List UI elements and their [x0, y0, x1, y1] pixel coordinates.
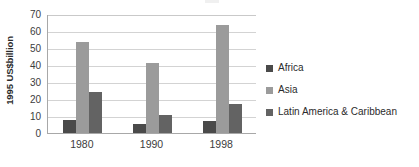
bar[interactable]: [63, 120, 76, 133]
bar[interactable]: [216, 25, 229, 133]
bar[interactable]: [159, 115, 172, 133]
y-axis-tick: 0: [35, 129, 41, 139]
legend-item[interactable]: Africa: [266, 57, 418, 79]
plot-area: [47, 15, 256, 134]
y-axis-title: 1995 US$billion: [0, 0, 18, 140]
legend-item[interactable]: Asia: [266, 79, 418, 101]
x-axis-tick: 1990: [140, 138, 163, 150]
y-axis-tick: 20: [30, 95, 41, 105]
bar[interactable]: [229, 104, 242, 133]
y-axis-tick: 30: [30, 78, 41, 88]
bar[interactable]: [89, 92, 102, 133]
chart-legend: AfricaAsiaLatin America & Caribbean: [266, 57, 418, 123]
bar[interactable]: [203, 121, 216, 133]
legend-swatch-icon: [266, 109, 273, 116]
y-axis-tick: 10: [30, 112, 41, 122]
legend-swatch-icon: [266, 87, 273, 94]
bar[interactable]: [76, 42, 89, 133]
legend-label: Africa: [278, 63, 304, 73]
bar-chart: 1995 US$billion 706050403020100 19801990…: [0, 0, 419, 167]
x-axis-tick: 1980: [70, 138, 93, 150]
bar[interactable]: [133, 124, 146, 133]
bar-group: [133, 15, 172, 133]
y-axis-tick: 40: [30, 61, 41, 71]
y-axis-tick-labels: 706050403020100: [18, 15, 44, 134]
y-axis-title-label: 1995 US$billion: [4, 36, 15, 105]
legend-swatch-icon: [266, 65, 273, 72]
legend-label: Asia: [278, 85, 297, 95]
legend-label: Latin America & Caribbean: [278, 107, 397, 117]
cropped-title-artifact: [205, 0, 219, 3]
x-axis-tick: 1998: [209, 138, 232, 150]
y-axis-tick: 70: [30, 10, 41, 20]
x-axis-tick-labels: 198019901998: [47, 138, 256, 158]
y-axis-tick: 50: [30, 44, 41, 54]
bar[interactable]: [146, 63, 159, 133]
bar-group: [63, 15, 102, 133]
legend-item[interactable]: Latin America & Caribbean: [266, 101, 418, 123]
bar-group: [203, 15, 242, 133]
bars-layer: [48, 15, 256, 133]
y-axis-tick: 60: [30, 27, 41, 37]
